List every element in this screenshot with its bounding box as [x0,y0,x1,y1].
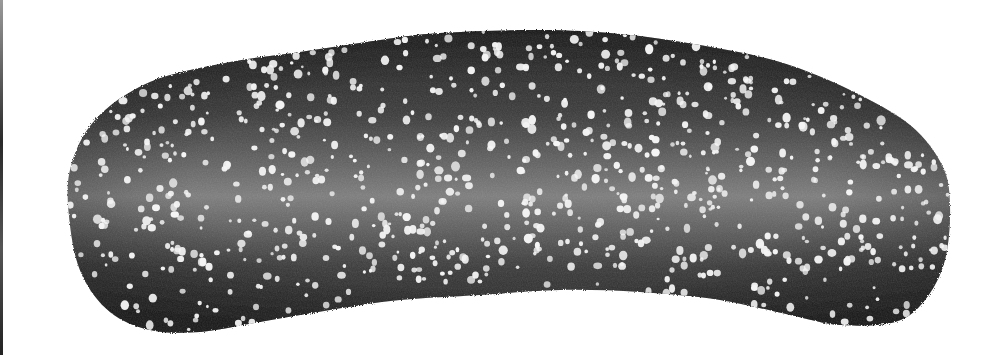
speckle [652,183,658,189]
speckle [323,255,330,261]
speckle [617,205,624,212]
speckle [251,83,257,90]
speckle [818,107,825,114]
speckle [171,144,174,148]
speckle [184,86,193,95]
speckle [206,112,209,115]
speckle [873,286,876,289]
speckle [305,170,310,175]
speckle [745,151,751,157]
speckle [746,157,755,166]
speckle [930,264,935,270]
speckle [561,123,567,130]
speckle [465,205,472,213]
speckle [815,217,822,225]
speckle [482,54,489,62]
speckle [799,122,808,132]
speckle [364,134,368,139]
speckle [99,131,106,137]
speckle [577,68,582,73]
speckle [593,262,602,269]
speckle [474,118,478,123]
speckle [397,264,404,271]
speckle [135,149,143,156]
speckle [628,143,632,149]
speckle [553,141,560,147]
speckle [507,155,510,159]
speckle [243,258,246,262]
speckle [481,237,485,242]
speckle [704,82,713,91]
speckle [416,267,422,272]
speckle [841,319,849,326]
speckle [372,259,377,266]
speckle [70,164,77,171]
speckle [846,189,852,195]
speckle [563,98,567,103]
speckle [504,139,509,144]
speckle [249,319,256,326]
speckle [483,265,490,271]
speckle [100,222,108,229]
speckle [605,66,610,71]
speckle [98,158,106,166]
speckle [617,50,624,56]
speckle [739,165,744,169]
speckle [642,237,651,244]
speckle [416,170,423,179]
speckle [434,207,440,214]
speckle [600,134,607,140]
speckle [633,211,639,218]
speckle [663,55,670,62]
speckle [241,316,245,321]
speckle [872,163,880,169]
speckle [138,206,145,213]
speckle [822,193,826,197]
speckle [304,293,308,297]
speckle [860,160,867,170]
speckle [926,211,931,215]
speckle [133,303,139,309]
speckle [652,136,660,143]
speckle [587,73,591,79]
speckle [839,266,843,271]
speckle [204,205,209,210]
speckle [544,96,550,102]
speckle [473,93,477,97]
speckle [440,272,445,276]
speckle [728,78,736,84]
speckle [897,174,901,179]
speckle [403,98,407,104]
speckle [379,232,386,239]
speckle [513,237,516,240]
speckle [524,220,529,225]
speckle [869,259,874,265]
speckle [544,281,551,287]
speckle [443,239,446,243]
speckle [252,219,256,223]
speckle [173,119,178,124]
speckle [482,224,487,229]
speckle [802,213,809,220]
speckle [651,194,656,200]
speckle [142,216,151,225]
speckle [480,46,487,52]
speckle [169,178,177,187]
speckle [713,59,716,63]
speckle [458,150,466,158]
speckle [291,253,297,261]
speckle [237,219,241,224]
speckle [292,52,299,60]
speckle [312,282,318,289]
speckle [534,209,541,216]
speckle [609,245,616,251]
speckle [495,67,501,74]
speckle [247,59,251,64]
speckle [387,134,393,140]
speckle [160,143,164,147]
speckle [618,169,622,173]
speckle [620,96,624,100]
speckle [179,247,186,256]
speckle [909,266,914,271]
speckle [433,55,442,62]
